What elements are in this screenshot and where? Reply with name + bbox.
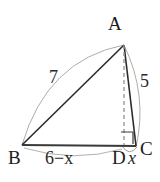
line-segment-bc [22,145,136,146]
vertex-label-b: B [8,148,21,167]
vertex-label-c: C [140,139,153,158]
geometry-figure: A B C D 7 5 6−x x [0,0,160,182]
vertex-label-a: A [108,14,122,33]
measure-label-side-ab: 7 [49,68,58,86]
measure-label-segment-dc: x [128,149,136,167]
measure-label-side-ac: 5 [140,72,149,90]
line-segment-ab [22,45,124,145]
measure-label-segment-bd: 6−x [45,149,73,167]
geometry-canvas [0,0,160,182]
vertex-label-d: D [112,148,126,167]
right-angle-marker-icon [121,132,133,144]
